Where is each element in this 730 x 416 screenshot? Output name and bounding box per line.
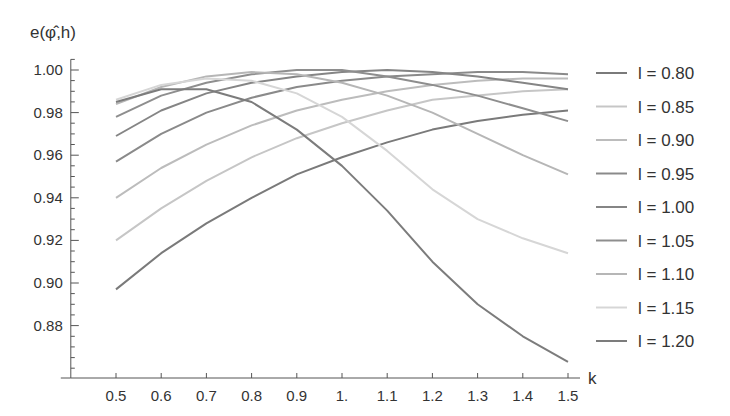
legend-label: l = 0.85 <box>638 98 694 117</box>
y-tick-label: 0.94 <box>34 189 63 206</box>
legend-label: l = 0.80 <box>638 64 694 83</box>
y-tick-label: 0.98 <box>34 104 63 121</box>
x-tick-label: 1.5 <box>558 387 579 404</box>
axes: 0.50.60.70.80.91.1.11.21.31.41.5k0.880.9… <box>30 23 597 404</box>
x-tick-label: 0.5 <box>106 387 127 404</box>
x-tick-label: 1.2 <box>422 387 443 404</box>
legend-item: l = 1.10 <box>596 265 694 284</box>
x-axis-label: k <box>588 369 597 388</box>
x-tick-label: 0.6 <box>151 387 172 404</box>
series-line-8 <box>116 89 568 362</box>
legend-item: l = 1.15 <box>596 299 694 318</box>
x-tick-label: 1.3 <box>467 387 488 404</box>
y-axis-label: e(φ̂,h) <box>30 23 76 42</box>
plot-area <box>116 70 568 362</box>
legend-item: l = 0.80 <box>596 64 694 83</box>
y-tick-label: 1.00 <box>34 61 63 78</box>
legend-item: l = 0.95 <box>596 165 694 184</box>
legend-label: l = 1.00 <box>638 198 694 217</box>
y-tick-label: 0.90 <box>34 274 63 291</box>
line-chart: 0.50.60.70.80.91.1.11.21.31.41.5k0.880.9… <box>0 0 730 416</box>
series-line-2 <box>116 79 568 198</box>
series-line-0 <box>116 111 568 290</box>
x-tick-label: 1.4 <box>512 387 533 404</box>
legend-item: l = 1.00 <box>596 198 694 217</box>
legend-item: l = 1.20 <box>596 332 694 351</box>
x-tick-label: 0.8 <box>241 387 262 404</box>
legend-label: l = 0.95 <box>638 165 694 184</box>
legend: l = 0.80l = 0.85l = 0.90l = 0.95l = 1.00… <box>596 64 694 351</box>
x-tick-label: 1.1 <box>377 387 398 404</box>
y-tick-label: 0.92 <box>34 231 63 248</box>
y-tick-label: 0.88 <box>34 317 63 334</box>
legend-label: l = 1.20 <box>638 332 694 351</box>
series-line-5 <box>116 70 568 121</box>
x-tick-label: 1. <box>336 387 349 404</box>
y-tick-label: 0.96 <box>34 146 63 163</box>
x-tick-label: 0.7 <box>196 387 217 404</box>
legend-item: l = 0.85 <box>596 98 694 117</box>
legend-item: l = 0.90 <box>596 131 694 150</box>
legend-label: l = 1.10 <box>638 265 694 284</box>
legend-item: l = 1.05 <box>596 232 694 251</box>
legend-label: l = 1.15 <box>638 299 694 318</box>
x-tick-label: 0.9 <box>286 387 307 404</box>
legend-label: l = 0.90 <box>638 131 694 150</box>
legend-label: l = 1.05 <box>638 232 694 251</box>
